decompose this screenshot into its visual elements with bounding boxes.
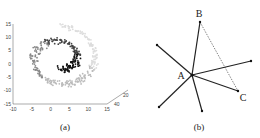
scatter-point bbox=[55, 82, 57, 84]
scatter-point bbox=[90, 45, 92, 47]
scatter-point bbox=[74, 46, 76, 48]
scatter-point bbox=[40, 50, 42, 52]
label-c: C bbox=[240, 92, 247, 103]
scatter-point bbox=[76, 30, 78, 32]
scatter-point bbox=[82, 73, 84, 75]
node-upper-left bbox=[156, 44, 158, 46]
scatter-point bbox=[33, 69, 35, 71]
scatter-point bbox=[60, 24, 62, 26]
scatter-point bbox=[86, 36, 88, 38]
panel-a-swiss-roll-scatter: 151050-5-10-15 -10-5051015 40200 (a) bbox=[0, 0, 130, 138]
scatter-point bbox=[67, 69, 69, 71]
scatter-point bbox=[39, 75, 41, 77]
scatter-point bbox=[66, 65, 68, 67]
scatter-point bbox=[76, 52, 78, 54]
scatter-point bbox=[90, 75, 92, 77]
scatter-point bbox=[33, 61, 35, 63]
scatter-point bbox=[48, 41, 50, 43]
scatter-point bbox=[40, 44, 42, 46]
scatter-point bbox=[47, 80, 49, 82]
scatter-point bbox=[44, 42, 46, 44]
scatter-point bbox=[57, 80, 59, 82]
scatter-point bbox=[38, 53, 40, 55]
scatter-point bbox=[57, 43, 59, 45]
z-tick-labels: 40200 bbox=[114, 85, 130, 107]
scatter-point bbox=[82, 33, 84, 35]
x-tick-label: 0 bbox=[49, 106, 52, 112]
scatter-point bbox=[69, 65, 71, 67]
y-tick-label: 5 bbox=[8, 47, 11, 53]
scatter-point bbox=[50, 83, 52, 85]
scatter-point bbox=[95, 67, 97, 69]
scatter-point bbox=[64, 71, 66, 73]
scatter-point bbox=[93, 66, 95, 68]
scatter-point bbox=[65, 41, 67, 43]
scatter-point bbox=[34, 63, 36, 65]
scatter-point bbox=[35, 65, 37, 67]
scatter-point bbox=[37, 73, 39, 75]
scatter-point bbox=[63, 68, 65, 70]
scatter-point bbox=[68, 30, 70, 32]
scatter-point bbox=[80, 75, 82, 77]
scatter-point bbox=[72, 45, 74, 47]
scatter-point bbox=[57, 65, 59, 67]
scatter-point bbox=[74, 54, 76, 56]
scatter-point bbox=[77, 62, 79, 64]
scatter-point bbox=[59, 80, 61, 82]
scatter-point bbox=[96, 64, 98, 66]
scatter-point bbox=[34, 46, 36, 48]
scatter-point bbox=[63, 42, 65, 44]
scatter-point bbox=[80, 58, 82, 60]
scatter-point bbox=[72, 26, 74, 28]
scatter-point bbox=[75, 79, 77, 81]
scatter-point bbox=[82, 77, 84, 79]
scatter-point bbox=[68, 86, 70, 88]
panel-b-neighbor-graph: B A C (b) bbox=[130, 0, 260, 138]
z-tick-label: 40 bbox=[114, 101, 120, 107]
scatter-point bbox=[61, 85, 63, 87]
scatter-point bbox=[73, 61, 75, 63]
scatter-point bbox=[90, 43, 92, 45]
scatter-point bbox=[32, 47, 34, 49]
scatter-point bbox=[39, 71, 41, 73]
scatter-point bbox=[75, 80, 77, 82]
node-a bbox=[190, 73, 193, 76]
scatter-point bbox=[81, 79, 83, 81]
scatter-point bbox=[94, 62, 96, 64]
scatter-point bbox=[40, 42, 42, 44]
scatter-point bbox=[49, 80, 51, 82]
scatter-point bbox=[59, 39, 61, 41]
scatter-point bbox=[95, 47, 97, 49]
scatter-point bbox=[32, 63, 34, 65]
edge-a-bottom bbox=[192, 75, 202, 111]
scatter-point bbox=[69, 41, 71, 43]
scatter-point bbox=[96, 57, 98, 59]
scatter-point bbox=[64, 39, 66, 41]
scatter-point bbox=[91, 60, 93, 62]
scatter-point bbox=[90, 65, 92, 67]
scatter-point bbox=[79, 65, 81, 67]
scatter-point bbox=[77, 81, 79, 83]
scatter-point bbox=[79, 32, 81, 34]
scatter-point bbox=[67, 25, 69, 27]
scatter-point bbox=[55, 39, 57, 41]
scatter-point bbox=[72, 62, 74, 64]
edge-a-b bbox=[192, 22, 200, 75]
scatter-point bbox=[58, 83, 60, 85]
scatter-point bbox=[72, 28, 74, 30]
y-tick-label: 10 bbox=[5, 34, 11, 40]
y-tick-label: 15 bbox=[5, 21, 11, 27]
scatter-point bbox=[68, 28, 70, 30]
scatter-point bbox=[62, 66, 64, 68]
scatter-point bbox=[88, 74, 90, 76]
y-tick-labels: 151050-5-10-15 bbox=[4, 21, 11, 107]
scatter-point bbox=[84, 35, 86, 37]
scatter-point bbox=[72, 64, 74, 66]
scatter-point bbox=[76, 48, 78, 50]
scatter-point bbox=[84, 78, 86, 80]
scatter-point bbox=[61, 83, 63, 85]
scatter-point bbox=[76, 56, 78, 58]
scatter-point bbox=[52, 79, 54, 81]
scatter-point bbox=[94, 55, 96, 57]
scatter-point bbox=[46, 44, 48, 46]
